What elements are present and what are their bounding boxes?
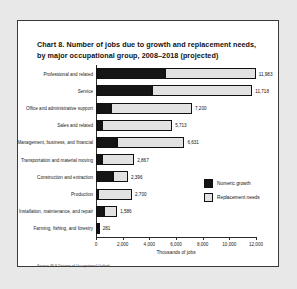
stacked-bar <box>96 120 172 131</box>
bar-row: Management, business, and financial6,631 <box>96 137 256 148</box>
x-axis-tick-label: 8,000 <box>197 242 209 247</box>
bar-row: Service11,718 <box>96 85 256 96</box>
legend-item-numeric-growth: Numeric growth <box>204 179 260 188</box>
bar-segment-numeric-growth <box>96 103 111 114</box>
stacked-bar <box>96 68 256 79</box>
bar-segment-replacement-needs <box>102 120 172 131</box>
x-axis-tick <box>123 237 124 240</box>
bar-segment-replacement-needs <box>102 154 135 165</box>
category-label: Installation, maintenance, and repair <box>19 209 93 214</box>
bar-value-label: 281 <box>103 226 111 231</box>
x-axis-tick-label: 4,000 <box>144 242 156 247</box>
x-axis-tick-label: 2,000 <box>117 242 129 247</box>
category-label: Transportation and material moving <box>21 157 93 162</box>
bar-segment-numeric-growth <box>96 137 117 148</box>
bar-segment-replacement-needs <box>98 223 100 234</box>
stacked-bar <box>96 85 252 96</box>
source-note: Source: BLS Division of Occupational Out… <box>37 264 110 268</box>
x-axis-tick-label: 10,000 <box>222 242 236 247</box>
bar-row: Sales and related5,713 <box>96 120 256 131</box>
x-axis-title: Thousands of jobs <box>96 250 256 255</box>
stacked-bar <box>96 189 132 200</box>
x-axis-tick-label: 12,000 <box>249 242 263 247</box>
bar-segment-replacement-needs <box>113 171 128 182</box>
x-axis-tick <box>96 237 97 240</box>
bar-value-label: 5,713 <box>175 123 187 128</box>
x-axis-tick-label: 6,000 <box>170 242 182 247</box>
bar-segment-replacement-needs <box>98 189 132 200</box>
category-label: Production <box>71 192 93 197</box>
legend-item-replacement-needs: Replacement needs <box>204 193 260 202</box>
category-label: Professional and related <box>43 71 93 76</box>
bar-value-label: 11,718 <box>255 88 269 93</box>
bar-segment-replacement-needs <box>111 103 192 114</box>
category-label: Farming, fishing, and forestry <box>34 226 94 231</box>
bar-value-label: 2,867 <box>137 157 149 162</box>
category-label: Management, business, and financial <box>17 140 93 145</box>
bar-value-label: 2,396 <box>131 174 143 179</box>
bar-segment-replacement-needs <box>117 137 185 148</box>
category-label: Sales and related <box>57 123 93 128</box>
bar-value-label: 2,700 <box>135 192 147 197</box>
bar-row: Farming, fishing, and forestry281 <box>96 223 256 234</box>
legend-label-replacement-needs: Replacement needs <box>217 195 260 200</box>
bar-segment-numeric-growth <box>96 171 113 182</box>
legend-swatch-numeric-growth <box>204 179 213 188</box>
bar-value-label: 6,631 <box>187 140 199 145</box>
x-axis-tick-label: 0 <box>95 242 98 247</box>
bar-value-label: 1,586 <box>120 209 132 214</box>
legend-swatch-replacement-needs <box>204 193 213 202</box>
stacked-bar <box>96 103 192 114</box>
category-label: Construction and extraction <box>37 174 93 179</box>
stacked-bar <box>96 154 134 165</box>
stacked-bar <box>96 206 117 217</box>
legend-label-numeric-growth: Numeric growth <box>217 181 251 186</box>
x-axis-tick <box>256 237 257 240</box>
x-axis-tick <box>203 237 204 240</box>
x-axis-tick <box>176 237 177 240</box>
stacked-bar <box>96 223 100 234</box>
x-axis-tick <box>149 237 150 240</box>
bar-row: Office and administrative support7,200 <box>96 103 256 114</box>
bar-segment-numeric-growth <box>96 85 152 96</box>
chart-title: Chart 8. Number of jobs due to growth an… <box>37 40 259 61</box>
bar-row: Transportation and material moving2,867 <box>96 154 256 165</box>
bar-row: Professional and related11,983 <box>96 68 256 79</box>
bar-segment-replacement-needs <box>104 206 117 217</box>
bar-segment-replacement-needs <box>165 68 256 79</box>
category-label: Service <box>78 88 93 93</box>
plot-area: Professional and related11,983Service11,… <box>96 65 256 237</box>
stacked-bar <box>96 171 128 182</box>
bar-segment-numeric-growth <box>96 206 104 217</box>
bar-value-label: 11,983 <box>259 71 273 76</box>
x-axis-tick <box>229 237 230 240</box>
chart-legend: Numeric growth Replacement needs <box>204 179 260 207</box>
bar-segment-replacement-needs <box>152 85 252 96</box>
category-label: Office and administrative support <box>26 106 93 111</box>
chart-figure-frame: Chart 8. Number of jobs due to growth an… <box>17 20 279 267</box>
bar-value-label: 7,200 <box>195 106 207 111</box>
bar-row: Installation, maintenance, and repair1,5… <box>96 206 256 217</box>
bar-segment-numeric-growth <box>96 68 165 79</box>
stacked-bar <box>96 137 184 148</box>
